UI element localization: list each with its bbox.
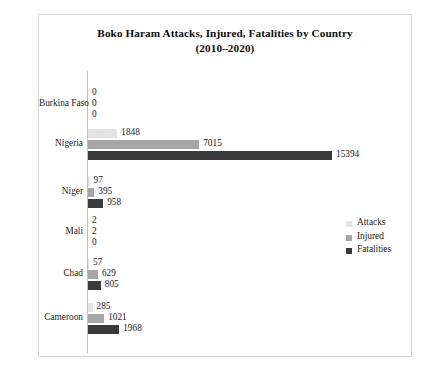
bar-row: 0 xyxy=(88,111,408,120)
legend-swatch-injured xyxy=(346,235,352,241)
legend-label: Injured xyxy=(357,231,384,241)
bar-value-label: 629 xyxy=(102,268,116,278)
category-label-burkina-faso: Burkina Faso xyxy=(39,98,83,108)
bar-row: 7015 xyxy=(88,140,408,149)
bar-value-label: 805 xyxy=(105,279,119,289)
legend-item-attacks[interactable]: Attacks xyxy=(346,217,416,231)
category-label-chad: Chad xyxy=(39,268,83,278)
category-label-nigeria: Nigeria xyxy=(39,138,83,148)
bar-value-label: 1848 xyxy=(121,127,140,137)
legend-item-fatalities[interactable]: Fatalities xyxy=(346,244,416,258)
bar-value-label: 0 xyxy=(92,87,97,97)
bar-row: 629 xyxy=(88,270,408,279)
bar-attacks[interactable] xyxy=(88,303,93,312)
bar-value-label: 0 xyxy=(92,109,97,119)
bar-attacks[interactable] xyxy=(88,177,90,186)
bar-value-label: 57 xyxy=(93,257,102,267)
bar-row: 395 xyxy=(88,188,408,197)
bar-fatalities[interactable] xyxy=(88,151,332,160)
chart-title-line-1: Boko Haram Attacks, Injured, Fatalities … xyxy=(39,26,411,41)
bar-value-label: 7015 xyxy=(203,138,222,148)
bar-value-label: 97 xyxy=(94,175,103,185)
category-label-niger: Niger xyxy=(39,186,83,196)
bar-row: 0 xyxy=(88,100,408,109)
bar-row: 805 xyxy=(88,281,408,290)
bar-row: 285 xyxy=(88,303,408,312)
bar-row: 1848 xyxy=(88,129,408,138)
chart-legend: AttacksInjuredFatalities xyxy=(346,217,416,258)
bar-injured[interactable] xyxy=(88,188,94,197)
caption-bleed xyxy=(40,372,400,381)
bar-value-label: 285 xyxy=(97,301,111,311)
bar-value-label: 2 xyxy=(92,226,97,236)
legend-label: Fatalities xyxy=(357,244,391,254)
bar-value-label: 1021 xyxy=(108,312,127,322)
bar-row: 57 xyxy=(88,259,408,268)
bar-value-label: 2 xyxy=(92,215,97,225)
bar-fatalities[interactable] xyxy=(88,281,101,290)
bar-value-label: 0 xyxy=(92,237,97,247)
legend-swatch-fatalities xyxy=(346,248,352,254)
bar-value-label: 1968 xyxy=(123,323,142,333)
chart-title: Boko Haram Attacks, Injured, Fatalities … xyxy=(39,26,411,55)
legend-swatch-attacks xyxy=(346,221,352,227)
category-label-mali: Mali xyxy=(39,226,83,236)
bar-value-label: 15394 xyxy=(336,149,359,159)
bar-value-label: 0 xyxy=(92,98,97,108)
bar-row: 958 xyxy=(88,199,408,208)
chart-figure: Boko Haram Attacks, Injured, Fatalities … xyxy=(38,14,412,357)
legend-item-injured[interactable]: Injured xyxy=(346,231,416,245)
bar-value-label: 395 xyxy=(98,186,112,196)
bar-attacks[interactable] xyxy=(88,129,117,138)
bar-value-label: 958 xyxy=(107,197,121,207)
bar-injured[interactable] xyxy=(88,314,104,323)
category-label-cameroon: Cameroon xyxy=(39,312,83,322)
bar-fatalities[interactable] xyxy=(88,325,119,334)
bar-row: 1968 xyxy=(88,325,408,334)
bar-injured[interactable] xyxy=(88,140,199,149)
plot-area: Burkina Faso000Nigeria1848701515394Niger… xyxy=(39,67,413,357)
bar-row: 97 xyxy=(88,177,408,186)
legend-label: Attacks xyxy=(357,217,385,227)
bar-attacks[interactable] xyxy=(88,259,89,268)
chart-title-line-2: (2010–2020) xyxy=(39,41,411,56)
bar-injured[interactable] xyxy=(88,270,98,279)
bar-row: 15394 xyxy=(88,151,408,160)
bar-row: 0 xyxy=(88,89,408,98)
bar-fatalities[interactable] xyxy=(88,199,103,208)
